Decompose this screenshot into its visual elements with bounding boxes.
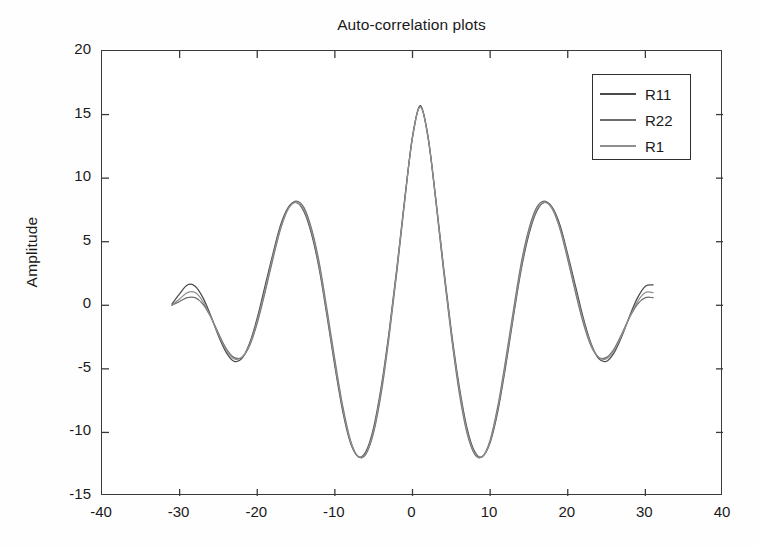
y-tick-label: 5 [31,231,91,248]
y-tick-label: 10 [31,167,91,184]
legend-swatch-r11 [600,93,636,95]
legend-item-r11[interactable]: R11 [593,80,692,108]
legend-item-r22[interactable]: R22 [593,106,692,134]
page-title: Auto-correlation plots [101,16,722,34]
x-tick-label: -20 [226,503,286,520]
legend-label: R22 [645,113,673,128]
x-tick-label: 40 [692,503,752,520]
x-tick-label: -40 [71,503,131,520]
y-axis-title-label: Amplitude [23,217,40,288]
series-line-r11 [172,106,653,457]
series-line-r1 [172,107,653,458]
y-tick-label: -10 [31,421,91,438]
x-tick-label: 0 [382,503,442,520]
legend-item-r1[interactable]: R1 [593,132,692,160]
legend-label: R11 [645,87,671,102]
y-tick-label: -5 [31,358,91,375]
chart-page: Auto-correlation plots Amplitude -15-10-… [0,0,759,547]
legend-swatch-r22 [600,119,636,121]
x-tick-label: -30 [149,503,209,520]
legend: R11R22R1 [592,74,691,160]
y-tick-label: -15 [31,485,91,502]
y-tick-label: 15 [31,104,91,121]
x-tick-label: -10 [304,503,364,520]
x-tick-label: 30 [614,503,674,520]
y-tick-label: 20 [31,40,91,57]
x-tick-label: 10 [459,503,519,520]
legend-swatch-r1 [600,145,636,147]
series-line-r22 [172,107,653,458]
y-tick-label: 0 [31,294,91,311]
x-tick-label: 20 [537,503,597,520]
legend-label: R1 [645,139,664,154]
